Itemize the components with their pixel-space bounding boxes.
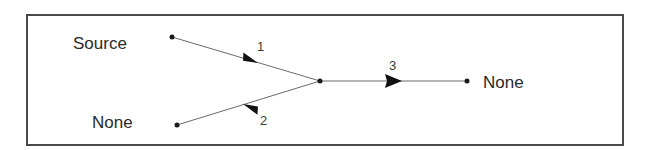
edge-2: 2 [177, 81, 320, 128]
node-junction [318, 79, 323, 84]
edge-3-label: 3 [389, 58, 396, 73]
edge-2-line [177, 81, 320, 125]
edge-2-label: 2 [260, 113, 267, 128]
node-label-source: Source [73, 34, 127, 53]
arrow-right-icon [385, 74, 402, 88]
node-label-none-right: None [483, 73, 524, 92]
edge-1: 1 [172, 37, 320, 81]
node-none-bottom [175, 123, 180, 128]
node-label-none-bottom: None [92, 113, 133, 132]
edge-3: 3 [320, 58, 467, 88]
arrow-right-icon [241, 52, 260, 65]
node-none-right [465, 79, 470, 84]
signal-flow-diagram: 1 2 3 Source None None [0, 0, 655, 150]
edge-1-label: 1 [257, 39, 264, 54]
node-source [170, 35, 175, 40]
